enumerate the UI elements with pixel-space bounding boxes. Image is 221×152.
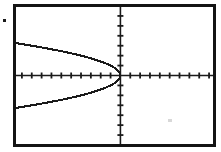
graph-plot-area[interactable] bbox=[16, 7, 213, 144]
axes-group bbox=[16, 7, 213, 144]
margin-speck-artifact bbox=[3, 19, 6, 22]
calculator-screen-frame bbox=[13, 4, 216, 147]
curve-series-0 bbox=[16, 43, 120, 75]
screenshot-root bbox=[0, 0, 221, 152]
curve-series-1 bbox=[16, 76, 120, 108]
